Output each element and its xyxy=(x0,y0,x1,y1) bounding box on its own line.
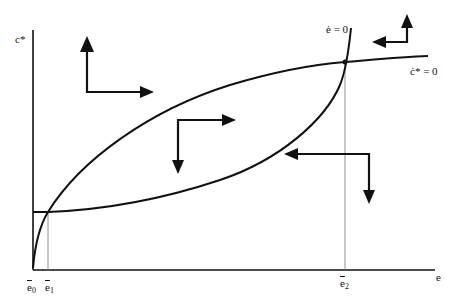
equilibrium-point xyxy=(343,60,348,65)
y-axis-label: c* xyxy=(15,34,25,45)
tick-label-e1: e1 xyxy=(45,282,54,295)
arrow-group-lower-right xyxy=(284,148,375,204)
e-dot-zero-label: ė = 0 xyxy=(326,24,348,35)
phase-diagram xyxy=(0,0,462,302)
tick-e2-sub: 2 xyxy=(345,282,349,291)
tick-e1-sub: 1 xyxy=(50,286,54,295)
arrow-group-center xyxy=(172,114,236,174)
arrow-group-upper-left xyxy=(80,36,154,98)
arrow-group-upper-right xyxy=(372,14,413,48)
tick-label-e0: e0 xyxy=(27,282,36,295)
c-star-zero-label: ċ* = 0 xyxy=(410,66,438,77)
x-axis-label: e xyxy=(436,272,441,283)
tick-e0-sub: 0 xyxy=(32,286,36,295)
tick-label-e2: e2 xyxy=(340,278,349,291)
